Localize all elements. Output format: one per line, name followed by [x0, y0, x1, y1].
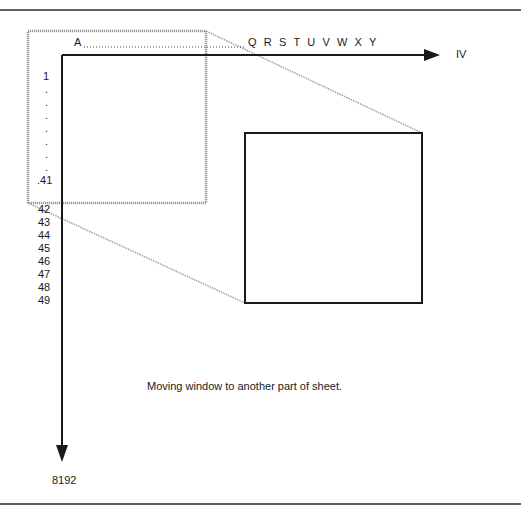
row-end-label: 8192 [52, 474, 76, 486]
moved-window-box [245, 133, 422, 303]
row-label: . [43, 109, 52, 122]
column-letters: Q R S T U V W X Y [248, 36, 378, 48]
row-label: . [43, 96, 52, 109]
row-label: 42 [38, 203, 50, 216]
row-label: . [43, 122, 52, 135]
row-labels-bottom: 42 43 44 45 46 47 48 49 [38, 203, 50, 307]
diagram-canvas [0, 0, 521, 511]
row-label: . [43, 148, 52, 161]
row-labels-top: 1 . . . . . . . .41 [43, 70, 52, 187]
row-label: . [43, 135, 52, 148]
projection-line-bottom [28, 203, 245, 303]
row-label: 1 [43, 70, 52, 83]
row-label: .41 [37, 174, 52, 187]
row-label: 44 [38, 229, 50, 242]
column-axis-arrowhead-icon [424, 49, 440, 61]
row-label: 43 [38, 216, 50, 229]
diagram-caption: Moving window to another part of sheet. [147, 380, 342, 392]
row-label: 47 [38, 268, 50, 281]
viewport-window [28, 31, 206, 203]
row-label: 46 [38, 255, 50, 268]
column-start-label: A [74, 36, 81, 48]
row-label: . [43, 161, 52, 174]
column-end-label: IV [456, 48, 466, 60]
row-label: 48 [38, 281, 50, 294]
row-label: 49 [38, 294, 50, 307]
row-axis-arrowhead-icon [56, 445, 68, 462]
row-label: 45 [38, 242, 50, 255]
row-label: . [43, 83, 52, 96]
